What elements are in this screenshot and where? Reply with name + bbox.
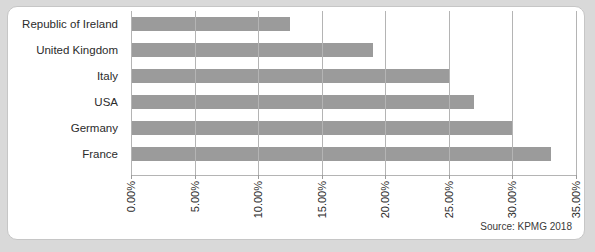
x-tick-mark	[258, 175, 259, 179]
x-tick-mark	[449, 175, 450, 179]
bar-row	[131, 95, 576, 109]
x-tick-mark	[385, 175, 386, 179]
bar[interactable]	[131, 17, 290, 31]
category-axis: Republic of IrelandUnited KingdomItalyUS…	[8, 15, 124, 174]
bar[interactable]	[131, 147, 551, 161]
x-tick-label: 20.00%	[379, 181, 391, 218]
bar-row	[131, 147, 576, 161]
category-label: France	[82, 147, 118, 161]
source-note: Source: KPMG 2018	[480, 221, 572, 232]
category-label: Germany	[71, 121, 118, 135]
gridline	[576, 11, 577, 175]
bar[interactable]	[131, 69, 449, 83]
category-label: United Kingdom	[36, 43, 118, 57]
x-tick-mark	[576, 175, 577, 179]
bar[interactable]	[131, 95, 474, 109]
bar-row	[131, 69, 576, 83]
bar-row	[131, 17, 576, 31]
category-label: Republic of Ireland	[22, 17, 118, 31]
x-tick-mark	[512, 175, 513, 179]
bar-chart: Republic of IrelandUnited KingdomItalyUS…	[8, 7, 585, 240]
x-tick-label: 30.00%	[506, 181, 518, 218]
x-tick-mark	[322, 175, 323, 179]
bar[interactable]	[131, 43, 373, 57]
x-tick-label: 0.00%	[125, 181, 137, 212]
x-tick-label: 15.00%	[316, 181, 328, 218]
bar-row	[131, 121, 576, 135]
x-tick-label: 5.00%	[189, 181, 201, 212]
bar-row	[131, 43, 576, 57]
bar[interactable]	[131, 121, 512, 135]
chart-card: Republic of IrelandUnited KingdomItalyUS…	[7, 6, 585, 240]
x-tick-label: 25.00%	[443, 181, 455, 218]
plot-area	[131, 15, 576, 174]
x-tick-label: 35.00%	[570, 181, 582, 218]
x-tick-mark	[131, 175, 132, 179]
x-tick-label: 10.00%	[252, 181, 264, 218]
category-label: Italy	[97, 69, 118, 83]
x-axis-line	[131, 175, 577, 176]
x-tick-mark	[195, 175, 196, 179]
category-label: USA	[94, 95, 118, 109]
